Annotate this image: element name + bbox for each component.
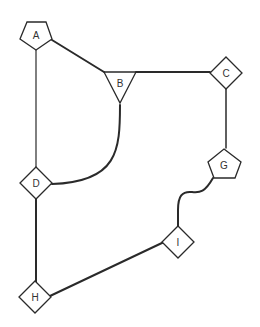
edge-a-b <box>52 40 104 72</box>
node-label: I <box>177 237 180 248</box>
edge-b-d <box>52 105 120 184</box>
node-label: D <box>32 178 39 189</box>
edge-g-i <box>178 178 213 226</box>
node-h[interactable]: H <box>19 281 51 313</box>
node-g[interactable]: G <box>208 149 241 178</box>
node-d[interactable]: D <box>20 167 52 199</box>
node-c[interactable]: C <box>210 57 242 89</box>
node-label: A <box>33 30 40 41</box>
node-a[interactable]: A <box>20 22 52 50</box>
node-i[interactable]: I <box>162 226 194 258</box>
node-label: G <box>220 160 228 171</box>
edge-h-i <box>50 242 164 296</box>
node-label: H <box>31 292 38 303</box>
node-label: B <box>117 78 124 89</box>
node-b[interactable]: B <box>104 72 136 103</box>
graph-diagram: A B C D G I H <box>0 0 260 327</box>
node-label: C <box>222 68 229 79</box>
